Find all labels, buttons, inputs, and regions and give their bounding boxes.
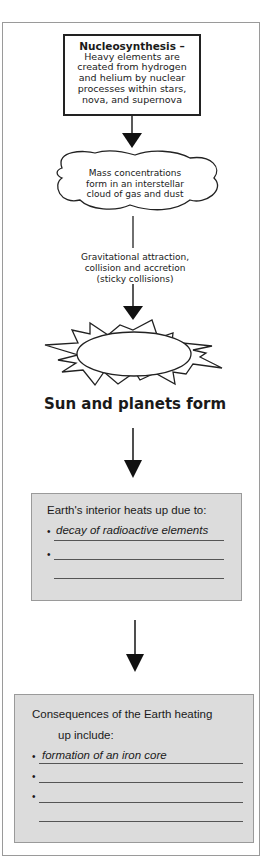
arrow-down-icon [123,284,143,320]
cloud-line: Mass concentrations [60,168,210,179]
interior-heat-box: Earth's interior heats up due to: • deca… [31,493,242,601]
consequence-answer-1[interactable]: formation of an iron core [42,749,167,761]
bullet-icon: • [32,751,36,762]
gravitation-line: (sticky collisions) [40,274,230,285]
gravitation-line: Gravitational attraction, [40,252,230,263]
gravitation-label: Gravitational attraction, collision and … [40,252,230,284]
nucleosynthesis-line: processes within stars, [65,84,199,95]
answer-line[interactable] [39,782,243,783]
nucleosynthesis-box: Nucleosynthesis – Heavy elements are cre… [63,34,201,116]
interior-heat-title: Earth's interior heats up due to: [47,504,206,516]
cloud-line: cloud of gas and dust [60,189,210,200]
cloud-line: form in an interstellar [60,179,210,190]
arrow-down-icon [126,620,144,672]
cloud-text: Mass concentrations form in an interstel… [60,168,210,200]
answer-line[interactable] [54,559,224,560]
consequences-title: Consequences of the Earth heating [32,708,212,720]
gravitation-line: collision and accretion [40,263,230,274]
sun-icon [45,320,222,385]
arrow-down-icon [124,428,142,478]
answer-line[interactable] [54,540,224,541]
bullet-icon: • [32,791,36,802]
bullet-icon: • [47,526,51,537]
interior-answer-1[interactable]: decay of radioactive elements [56,524,208,536]
bullet-icon: • [32,771,36,782]
answer-line[interactable] [39,821,243,822]
consequences-box: Consequences of the Earth heating up inc… [14,694,254,843]
answer-line[interactable] [39,802,243,803]
consequences-title-cont: up include: [58,729,114,741]
nucleosynthesis-line: nova, and supernova [65,95,199,106]
arrow-down-icon [122,116,142,148]
answer-line[interactable] [54,578,224,579]
answer-line[interactable] [39,763,243,764]
sun-label: Sun and planets form [20,395,250,413]
bullet-icon: • [47,549,51,560]
